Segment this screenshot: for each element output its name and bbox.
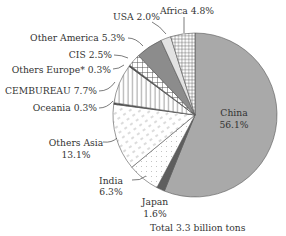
leader-oceania bbox=[99, 101, 113, 108]
label-cembureau: CEMBUREAU 7.7% bbox=[5, 85, 97, 96]
leader-cis bbox=[114, 55, 128, 58]
label-japan: Japan bbox=[141, 196, 169, 207]
leader-cembureau bbox=[99, 82, 115, 91]
label-usa: USA 2.0% bbox=[113, 11, 160, 22]
pct-china: 56.1% bbox=[219, 119, 248, 130]
pie-slices bbox=[113, 33, 277, 197]
label-others-europe: Others Europe* 0.3% bbox=[12, 64, 112, 75]
leader-others-asia bbox=[103, 138, 117, 142]
label-other-america: Other America 5.3% bbox=[30, 32, 125, 43]
leader-usa bbox=[152, 22, 166, 34]
pie-chart: Africa 4.8% USA 2.0% Other America 5.3% … bbox=[0, 0, 286, 236]
label-china: China bbox=[220, 107, 248, 118]
pct-japan: 1.6% bbox=[143, 208, 167, 219]
pct-others-asia: 13.1% bbox=[61, 149, 90, 160]
chart-footnote: Total 3.3 billion tons bbox=[150, 222, 246, 233]
label-oceania: Oceania 0.3% bbox=[33, 102, 97, 113]
leader-others-europe bbox=[113, 65, 124, 69]
leader-other-america bbox=[128, 38, 143, 46]
label-africa: Africa 4.8% bbox=[159, 5, 214, 16]
label-cis: CIS 2.5% bbox=[69, 49, 112, 60]
label-others-asia: Others Asia bbox=[49, 137, 104, 148]
label-india: India bbox=[99, 175, 123, 186]
pct-india: 6.3% bbox=[99, 186, 123, 197]
